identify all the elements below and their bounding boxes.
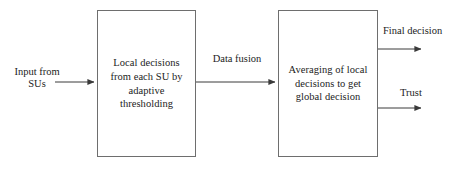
edge-label-trust: Trust <box>400 87 444 99</box>
node-averaging-label: Averaging of local decisions to get glob… <box>284 63 373 104</box>
block-diagram: Local decisions from each SU by adaptive… <box>0 0 451 172</box>
edge-label-input-from-sus: Input from SUs <box>4 66 70 90</box>
node-averaging: Averaging of local decisions to get glob… <box>278 10 378 157</box>
node-local-decisions-label: Local decisions from each SU by adaptive… <box>105 56 187 110</box>
edge-label-data-fusion: Data fusion <box>200 53 274 65</box>
node-local-decisions: Local decisions from each SU by adaptive… <box>97 10 196 157</box>
edge-label-final-decision: Final decision <box>383 25 449 37</box>
